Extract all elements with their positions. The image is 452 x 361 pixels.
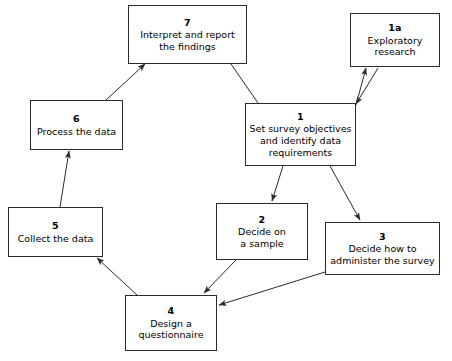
node-label: Decide how to administer the survey bbox=[327, 243, 437, 266]
node-label: Design a questionnaire bbox=[135, 318, 206, 341]
connector-n1-to-n3 bbox=[330, 166, 360, 220]
node-number: 1 bbox=[297, 111, 304, 123]
connector-n1-to-n2 bbox=[272, 166, 283, 201]
connector-n6-to-n7 bbox=[106, 64, 145, 100]
connector-n4-to-n5 bbox=[97, 258, 137, 295]
flowchart-node-n4: 4Design a questionnaire bbox=[125, 295, 217, 351]
node-label: Set survey objectives and identify data … bbox=[247, 123, 355, 158]
flowchart-node-n5: 5Collect the data bbox=[8, 207, 103, 257]
node-number: 5 bbox=[52, 220, 59, 232]
node-number: 2 bbox=[259, 214, 266, 226]
node-number: 3 bbox=[379, 231, 386, 243]
flowchart-node-n1a: 1aExploratory research bbox=[350, 13, 440, 67]
flowchart-diagram: 7Interpret and report the findings1aExpl… bbox=[0, 0, 452, 361]
node-number: 4 bbox=[168, 305, 175, 317]
node-label: Exploratory research bbox=[365, 35, 426, 58]
flowchart-node-n2: 2Decide on a sample bbox=[216, 203, 308, 260]
flowchart-node-n7: 7Interpret and report the findings bbox=[128, 5, 247, 64]
node-number: 6 bbox=[73, 113, 80, 125]
flowchart-node-n6: 6Process the data bbox=[30, 100, 123, 150]
connector-n1-to-n1a bbox=[356, 68, 366, 105]
node-label: Decide on a sample bbox=[235, 226, 289, 249]
flowchart-node-n3: 3Decide how to administer the survey bbox=[325, 222, 440, 275]
flowchart-node-n1: 1Set survey objectives and identify data… bbox=[245, 103, 356, 166]
node-number: 7 bbox=[184, 17, 191, 29]
node-number: 1a bbox=[388, 22, 401, 34]
node-label: Process the data bbox=[34, 126, 119, 138]
node-label: Collect the data bbox=[15, 233, 97, 245]
connector-n2-to-n4 bbox=[204, 260, 236, 293]
connector-n3-to-n4 bbox=[219, 272, 325, 305]
connector-n5-to-n6 bbox=[60, 151, 69, 207]
connector-n7-to-n1 bbox=[231, 64, 258, 103]
node-label: Interpret and report the findings bbox=[137, 29, 238, 52]
connector-n1a-to-n1 bbox=[356, 68, 378, 104]
